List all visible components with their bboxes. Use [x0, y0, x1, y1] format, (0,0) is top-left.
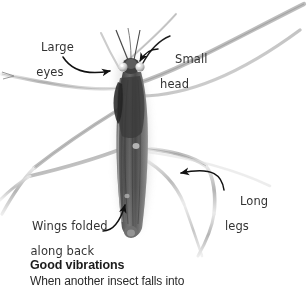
caption-body: When another insect falls into [30, 274, 300, 288]
label-large-eyes: Large eyes [26, 28, 74, 103]
label-long-legs: Long legs [225, 182, 268, 257]
caption-heading: Good vibrations [30, 258, 300, 273]
label-wings-folded-line1: Wings folded [32, 219, 108, 233]
label-small-head-line1: Small [175, 52, 207, 66]
label-small-head: Small head [160, 40, 207, 115]
label-small-head-line2: head [160, 78, 207, 91]
label-long-legs-line2: legs [225, 220, 268, 233]
figure-page: Large eyes Small head Long legs Wings fo… [0, 0, 307, 291]
right-eye [135, 62, 144, 71]
left-eye [118, 62, 127, 71]
label-large-eyes-line2: eyes [26, 66, 74, 79]
label-long-legs-line1: Long [240, 194, 268, 208]
label-large-eyes-line1: Large [41, 40, 74, 54]
label-wings-folded-line2: along back [17, 245, 108, 258]
caption-block: Good vibrations When another insect fall… [30, 258, 300, 288]
